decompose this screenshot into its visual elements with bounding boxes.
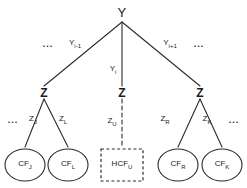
mid-node-z-right-label: Z <box>196 86 203 100</box>
leaf-node-hcf-u: HCFU <box>112 160 133 170</box>
ellipsis-bottom-left: ... <box>8 116 19 125</box>
leaf-node-cf-j-base: CF <box>18 159 29 168</box>
leaf-node-hcf-u-base: HCF <box>112 159 128 168</box>
mid-node-z-left: Z <box>40 87 47 99</box>
leaf-node-cf-j-sub: J <box>29 164 32 170</box>
leaf-node-cf-k-base: CF <box>215 159 226 168</box>
edge-y-to-z-left <box>44 22 122 86</box>
leaf-node-cf-r-base: CF <box>170 159 181 168</box>
edge-label-y-i-plus-1: Yi+1 <box>163 39 177 49</box>
edge-label-z-j: ZJ <box>29 115 37 125</box>
edge-label-z-r: ZR <box>160 115 169 125</box>
mid-node-z-right: Z <box>196 87 203 99</box>
edge-label-z-l: ZL <box>59 115 67 125</box>
leaf-node-cf-l: CFL <box>61 160 75 170</box>
leaf-node-cf-l-base: CF <box>61 159 72 168</box>
ellipsis-top-left-text: ... <box>43 39 54 49</box>
leaf-node-cf-r-sub: R <box>181 164 185 170</box>
edge-z-right-to-cf-r <box>178 99 200 147</box>
mid-node-z-left-label: Z <box>40 86 47 100</box>
root-node-y: Y <box>118 6 127 19</box>
edge-label-z-u: ZU <box>107 117 116 127</box>
ellipsis-bottom-right: ... <box>229 116 240 125</box>
leaf-node-cf-r: CFR <box>170 160 185 170</box>
mid-node-z-center: Z <box>118 87 125 99</box>
leaf-node-cf-l-sub: L <box>72 164 75 170</box>
edge-label-y-i-plus-1-sub: i+1 <box>169 43 177 49</box>
edge-label-y-i-minus-1-sub: i-1 <box>74 43 81 49</box>
ellipsis-top-right-text: ... <box>194 39 205 49</box>
leaf-node-cf-j: CFJ <box>18 160 32 170</box>
root-node-label: Y <box>118 5 127 20</box>
mid-node-z-center-label: Z <box>118 86 125 100</box>
leaf-node-cf-k: CFK <box>215 160 230 170</box>
edge-label-z-k: ZK <box>203 115 212 125</box>
edge-label-z-r-sub: R <box>165 119 169 125</box>
edge-label-y-i-sub: i <box>115 69 116 75</box>
ellipsis-top-right: ... <box>194 40 205 49</box>
ellipsis-bottom-left-text: ... <box>8 115 19 125</box>
edge-y-to-z-right <box>122 22 200 86</box>
edge-label-y-i-minus-1: Yi-1 <box>69 39 81 49</box>
leaf-node-hcf-u-sub: U <box>128 164 132 170</box>
edge-label-z-l-sub: L <box>64 119 67 125</box>
edge-label-y-i: Yi <box>110 65 117 75</box>
edge-label-z-j-sub: J <box>34 119 37 125</box>
edge-label-z-u-sub: U <box>112 121 116 127</box>
ellipsis-top-left: ... <box>43 40 54 49</box>
ellipsis-bottom-right-text: ... <box>229 115 240 125</box>
leaf-node-cf-k-sub: K <box>225 164 229 170</box>
edge-label-z-k-sub: K <box>207 119 211 125</box>
diagram-canvas: Y ... Yi-1 Yi Yi+1 ... Z Z Z ... ZJ ZL Z… <box>0 0 247 188</box>
